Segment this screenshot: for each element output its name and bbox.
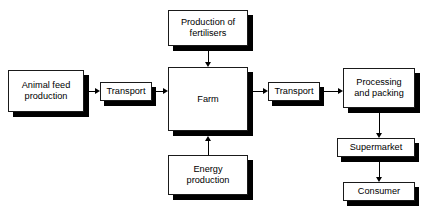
arrowhead-energy-to-farm bbox=[205, 136, 211, 141]
node-label-animal-feed-production: Animal feed production bbox=[20, 80, 73, 102]
node-label-supermarket: Supermarket bbox=[348, 142, 405, 153]
node-processing-and-packing[interactable]: Processing and packing bbox=[343, 68, 415, 108]
arrowhead-supermarket-to-consumer bbox=[376, 177, 382, 182]
node-transport-1[interactable]: Transport bbox=[100, 82, 152, 101]
node-animal-feed-production[interactable]: Animal feed production bbox=[8, 70, 84, 112]
arrowhead-transport-1-to-farm bbox=[163, 88, 168, 94]
arrowhead-animal-feed-to-transport-1 bbox=[95, 88, 100, 94]
arrowhead-processing-to-supermarket bbox=[376, 133, 382, 138]
connector-energy-to-farm bbox=[208, 141, 209, 155]
node-farm[interactable]: Farm bbox=[168, 67, 248, 131]
arrowhead-fertilisers-to-farm bbox=[205, 62, 211, 67]
arrowhead-farm-to-transport-2 bbox=[263, 88, 268, 94]
node-energy-production[interactable]: Energy production bbox=[168, 155, 248, 195]
node-label-energy-production: Energy production bbox=[185, 164, 232, 186]
node-supermarket[interactable]: Supermarket bbox=[337, 138, 415, 157]
flowchart-diagram: Animal feed production Transport Product… bbox=[0, 0, 423, 212]
arrowhead-transport-2-to-processing bbox=[338, 88, 343, 94]
node-transport-2[interactable]: Transport bbox=[268, 82, 320, 101]
node-label-farm: Farm bbox=[195, 94, 220, 105]
connector-farm-to-transport-2 bbox=[253, 91, 263, 92]
node-label-processing-and-packing: Processing and packing bbox=[352, 77, 406, 99]
connector-supermarket-to-consumer bbox=[379, 162, 380, 177]
node-label-production-of-fertilisers: Production of fertilisers bbox=[179, 17, 237, 39]
connector-processing-to-supermarket bbox=[379, 113, 380, 133]
node-production-of-fertilisers[interactable]: Production of fertilisers bbox=[168, 10, 248, 46]
node-label-transport-2: Transport bbox=[273, 86, 316, 97]
node-consumer[interactable]: Consumer bbox=[343, 182, 415, 201]
node-label-transport-1: Transport bbox=[105, 86, 148, 97]
connector-transport-2-to-processing bbox=[324, 91, 338, 92]
node-label-consumer: Consumer bbox=[356, 186, 402, 197]
